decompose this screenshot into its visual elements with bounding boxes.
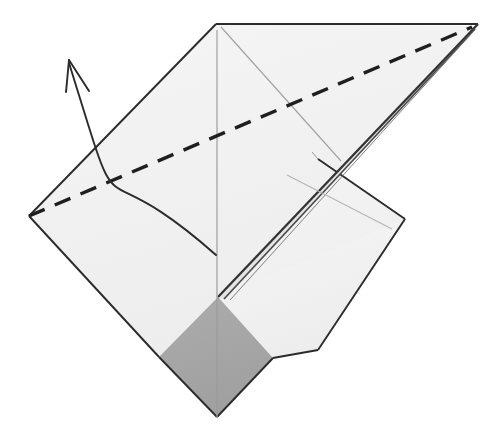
origami-diagram — [0, 0, 497, 431]
paper-surfaces — [29, 24, 476, 417]
arrow-head-left-barb — [66, 60, 69, 92]
origami-illustration — [0, 0, 497, 431]
